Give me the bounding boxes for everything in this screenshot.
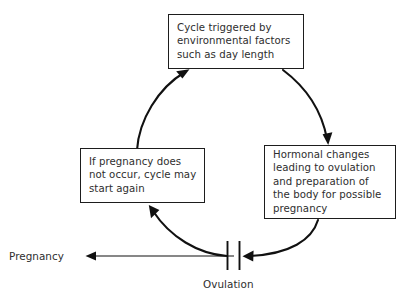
- arrowhead-into-pregnancy: [86, 252, 97, 261]
- flow-box-cycle-trigger-text: Cycle triggered by environmental factors…: [177, 21, 290, 61]
- flow-box-cycle-trigger: Cycle triggered by environmental factors…: [168, 14, 304, 69]
- connector-bottom-to-left: [149, 205, 227, 256]
- arrowhead-into-hormonal-changes: [323, 132, 333, 145]
- flow-box-hormonal-changes: Hormonal changes leading to ovulation an…: [264, 145, 396, 219]
- label-ovulation: Ovulation: [203, 278, 254, 291]
- label-pregnancy: Pregnancy: [9, 250, 64, 263]
- flow-box-no-pregnancy: If pregnancy does not occur, cycle may s…: [80, 148, 205, 203]
- flow-box-no-pregnancy-text: If pregnancy does not occur, cycle may s…: [89, 155, 196, 195]
- connector-right-to-bottom: [243, 220, 319, 261]
- flow-box-hormonal-changes-text: Hormonal changes leading to ovulation an…: [273, 148, 381, 215]
- connector-left-to-top: [137, 69, 190, 150]
- connector-top-to-right: [283, 70, 332, 145]
- arrowhead-into-ovulation: [243, 251, 254, 262]
